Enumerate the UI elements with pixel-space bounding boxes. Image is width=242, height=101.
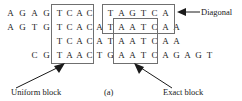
base-cell: T xyxy=(29,20,40,34)
base-cell: A xyxy=(29,6,40,20)
exact-block-rect xyxy=(113,18,158,64)
base-cell: A xyxy=(182,48,193,62)
diagonal-label: Diagonal xyxy=(201,7,232,17)
uniform-block-arrow xyxy=(14,62,76,90)
base-cell: A xyxy=(94,34,105,48)
base-cell: T xyxy=(94,48,105,62)
base-cell: C xyxy=(29,48,40,62)
exact-block-label: Exact block xyxy=(163,87,203,97)
base-cell: T xyxy=(204,48,215,62)
uniform-block-rect xyxy=(51,4,94,64)
base-cell: G xyxy=(17,20,28,34)
base-cell: A xyxy=(160,34,171,48)
base-cell: A xyxy=(171,34,182,48)
figure-caption: (a) xyxy=(104,87,113,97)
base-cell: G xyxy=(17,6,28,20)
base-cell: A xyxy=(5,6,16,20)
base-cell: G xyxy=(171,48,182,62)
base-cell: A xyxy=(160,48,171,62)
sequence-alignment-figure: A G A G T C A C T A G T C A A G T G T C … xyxy=(0,0,242,101)
exact-block-arrow xyxy=(132,62,178,90)
base-cell: A xyxy=(5,20,16,34)
diagonal-arrow xyxy=(176,6,202,18)
uniform-block-label: Uniform block xyxy=(11,87,61,97)
base-cell: G xyxy=(193,48,204,62)
